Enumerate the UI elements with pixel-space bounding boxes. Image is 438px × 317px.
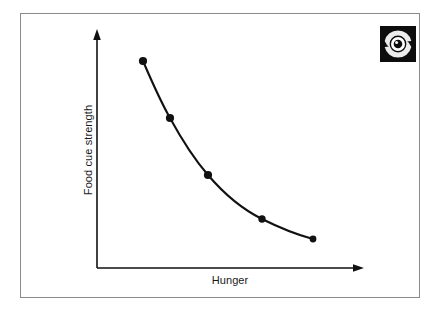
publisher-logo — [380, 26, 416, 62]
y-axis — [93, 29, 101, 268]
data-point — [166, 114, 174, 122]
data-point — [204, 171, 212, 179]
figure-root: Food cue strength Hunger — [0, 0, 438, 317]
data-point — [310, 236, 317, 243]
data-curve — [143, 61, 313, 239]
x-axis-label: Hunger — [97, 274, 363, 286]
data-point — [139, 57, 147, 65]
y-axis-arrowhead — [93, 29, 101, 40]
eye-icon — [380, 26, 416, 62]
data-point-markers — [139, 57, 317, 243]
y-axis-label: Food cue strength — [82, 70, 94, 230]
x-axis-arrowhead — [353, 264, 364, 272]
x-axis — [97, 264, 364, 272]
chart-canvas — [0, 0, 438, 317]
data-point — [258, 215, 265, 222]
